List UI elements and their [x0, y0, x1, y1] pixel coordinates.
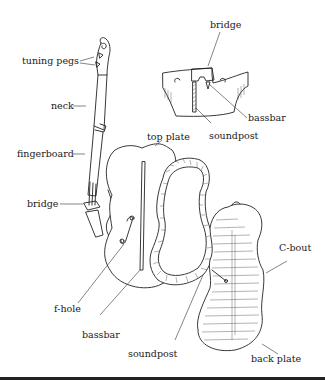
label-back-plate: back plate — [251, 354, 301, 364]
label-c-bout: C-bout — [279, 243, 311, 253]
label-bassbar-main: bassbar — [82, 330, 120, 340]
side-view-violin — [84, 38, 112, 240]
label-fingerboard: fingerboard — [17, 149, 74, 159]
label-bassbar-detail: bassbar — [248, 113, 286, 123]
label-soundpost-detail: soundpost — [209, 131, 258, 141]
bridge-cross-section — [163, 68, 248, 116]
label-neck: neck — [51, 101, 74, 111]
violin-diagram: tuning pegs neck fingerboard bridge brid… — [0, 0, 325, 380]
label-tuning-pegs: tuning pegs — [22, 56, 79, 66]
label-bridge-detail: bridge — [210, 20, 241, 30]
label-top-plate: top plate — [147, 132, 190, 142]
label-soundpost-main: soundpost — [128, 349, 177, 359]
label-bridge-side: bridge — [27, 199, 58, 209]
label-f-hole: f-hole — [54, 304, 81, 314]
